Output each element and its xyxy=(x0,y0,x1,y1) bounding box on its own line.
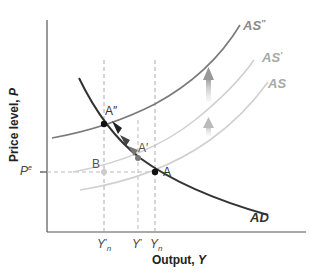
curve-label-as-double-prime: AS″ xyxy=(243,18,265,33)
point-a-prime xyxy=(135,155,141,161)
y-axis-label-var: P xyxy=(7,88,21,96)
x-axis-label-var: Y xyxy=(198,253,206,267)
x-tick-y-prime-mark: ′ xyxy=(140,237,142,247)
x-tick-yn: Yn xyxy=(150,237,162,253)
as-label: AS xyxy=(268,76,286,91)
point-a-label: A xyxy=(163,165,171,179)
x-tick-yn-prime-sub: n xyxy=(107,244,111,253)
point-label-b: B xyxy=(92,157,100,171)
shift-up-arrow-large-shaft xyxy=(206,78,211,102)
point-label-a-prime: A′ xyxy=(138,141,148,155)
point-b xyxy=(101,169,107,175)
x-axis-label: Output, Y xyxy=(152,253,206,267)
y-axis-label-text: Price level, xyxy=(7,96,21,162)
point-a-double-prime-label: A″ xyxy=(105,104,117,118)
x-tick-yn-prime-label: Y xyxy=(97,237,105,251)
x-tick-yn-sub: n xyxy=(158,244,162,253)
x-tick-y-prime-label: Y xyxy=(132,237,140,251)
ad-curve xyxy=(79,78,268,215)
x-axis-label-text: Output, xyxy=(152,253,198,267)
point-a xyxy=(152,169,158,175)
ad-label: AD xyxy=(250,210,269,225)
x-tick-y-prime: Y′ xyxy=(132,237,142,251)
point-b-label: B xyxy=(92,157,100,171)
point-a-double-prime xyxy=(101,121,107,127)
shift-up-arrow-small-head xyxy=(203,117,214,128)
as-curve xyxy=(80,82,268,190)
y-axis-label: Price level, P xyxy=(7,65,21,185)
as-double-prime-mark: ″ xyxy=(261,18,265,28)
y-tick-pe-label: P xyxy=(20,164,28,178)
y-tick-pe: Pe xyxy=(20,164,32,178)
as-prime-mark: ′ xyxy=(280,50,282,60)
y-tick-pe-sup: e xyxy=(28,164,32,171)
curve-label-ad: AD xyxy=(250,210,269,225)
x-tick-yn-prime: Y′n xyxy=(97,237,111,253)
as-prime-label: AS xyxy=(262,50,280,65)
as-double-prime-label: AS xyxy=(243,18,261,33)
point-label-a: A xyxy=(163,165,171,179)
curve-label-as-prime: AS′ xyxy=(262,50,282,65)
curve-label-as: AS xyxy=(268,76,286,91)
point-a-prime-label: A′ xyxy=(138,141,148,155)
x-tick-yn-label: Y xyxy=(150,237,158,251)
point-label-a-double-prime: A″ xyxy=(105,104,117,118)
